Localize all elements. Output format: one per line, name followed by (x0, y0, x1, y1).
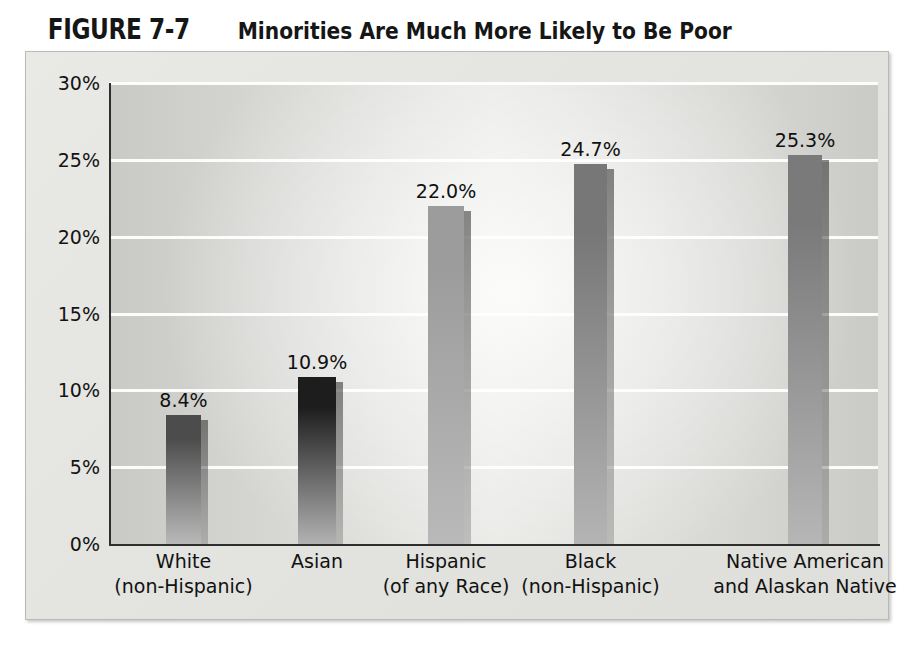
y-axis-tick-labels: 0%5%10%15%20%25%30% (34, 83, 100, 544)
category-label-line2: (non-Hispanic) (521, 574, 659, 599)
x-axis-category-label: Asian (291, 549, 343, 574)
bar-value-label: 22.0% (416, 180, 476, 202)
category-label-line2: and Alaskan Native (713, 574, 897, 599)
gridline (109, 236, 878, 239)
y-axis-line (109, 83, 111, 546)
x-axis-category-label: Native Americanand Alaskan Native (713, 549, 897, 599)
bar-value-label: 25.3% (775, 129, 835, 151)
bar-shadow (607, 169, 614, 544)
y-axis-tick-label: 25% (38, 149, 100, 171)
plot-area: 8.4%10.9%22.0%24.7%25.3% (109, 83, 878, 544)
bar-fill (298, 377, 336, 544)
gridline (109, 313, 878, 316)
bar-value-label: 24.7% (560, 138, 620, 160)
y-axis-tick-label: 5% (38, 456, 100, 478)
gridline (109, 82, 878, 85)
y-axis-tick-label: 15% (38, 303, 100, 325)
category-label-line1: Asian (291, 550, 343, 572)
bar: 8.4% (166, 415, 201, 544)
bar: 22.0% (428, 206, 464, 544)
x-axis-category-label: White(non-Hispanic) (114, 549, 252, 599)
bar-fill (428, 206, 464, 544)
bar: 10.9% (298, 377, 336, 544)
y-axis-tick-label: 30% (38, 72, 100, 94)
bar-fill (788, 155, 822, 544)
category-label-line1: Black (565, 550, 616, 572)
y-axis-tick-label: 10% (38, 379, 100, 401)
category-label-line1: Native American (726, 550, 884, 572)
bar: 24.7% (574, 164, 607, 544)
bar-value-label: 8.4% (159, 389, 207, 411)
page-title: Minorities Are Much More Likely to Be Po… (237, 18, 731, 44)
category-label-line2: (of any Race) (383, 574, 510, 599)
category-label-line2: (non-Hispanic) (114, 574, 252, 599)
y-axis-tick-label: 20% (38, 226, 100, 248)
category-label-line1: Hispanic (406, 550, 487, 572)
x-axis-line (109, 544, 880, 546)
gridline (109, 159, 878, 162)
x-axis-category-label: Black(non-Hispanic) (521, 549, 659, 599)
x-axis-category-labels: White(non-Hispanic)AsianHispanic(of any … (109, 549, 880, 615)
chart-panel: 0%5%10%15%20%25%30% 8.4%10.9%22.0%24.7%2… (25, 51, 889, 620)
bar-shadow (201, 420, 208, 544)
bar-shadow (822, 160, 829, 544)
bar-fill (574, 164, 607, 544)
y-axis-tick-label: 0% (38, 533, 100, 555)
bar-shadow (464, 211, 471, 544)
figure-number-label: FIGURE 7-7 (48, 12, 190, 46)
category-label-line1: White (156, 550, 211, 572)
gridline (109, 389, 878, 392)
bar-shadow (336, 382, 343, 544)
figure-screenshot: FIGURE 7-7 Minorities Are Much More Like… (0, 0, 904, 645)
bar-fill (166, 415, 201, 544)
figure-title-row: FIGURE 7-7 Minorities Are Much More Like… (30, 12, 870, 48)
bar-value-label: 10.9% (287, 351, 347, 373)
x-axis-category-label: Hispanic(of any Race) (383, 549, 510, 599)
bar: 25.3% (788, 155, 822, 544)
gridline (109, 466, 878, 469)
